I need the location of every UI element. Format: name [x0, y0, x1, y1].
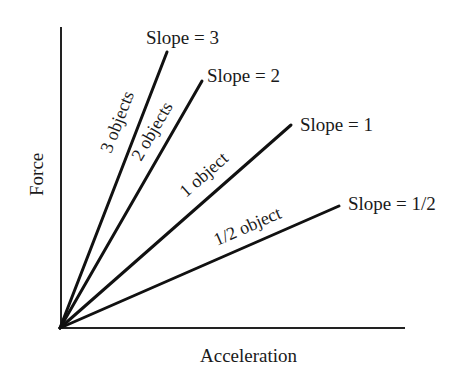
slope-3-label: Slope = 3 [146, 27, 219, 48]
slope-half-label: Slope = 1/2 [348, 193, 436, 214]
half-object-label: 1/2 object [211, 203, 285, 250]
line-slope-2 [60, 81, 202, 328]
one-object-label: 1 object [175, 148, 231, 201]
two-objects-label: 2 objects [127, 98, 176, 164]
x-axis-label: Acceleration [200, 345, 298, 366]
line-slope-half [60, 206, 339, 328]
slope-2-label: Slope = 2 [207, 65, 280, 86]
slope-1-label: Slope = 1 [300, 114, 373, 135]
y-axis-label: Force [26, 153, 47, 196]
force-acceleration-diagram: Force Acceleration Slope = 3 Slope = 2 S… [0, 0, 468, 387]
